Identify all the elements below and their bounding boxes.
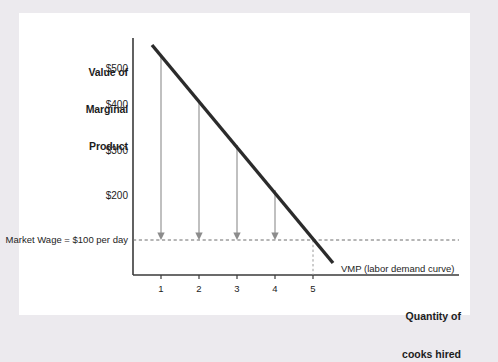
y-tick-label-400: $400: [67, 99, 128, 111]
drop-line-q2: [195, 100, 202, 240]
x-tick-label-1: 1: [149, 283, 173, 294]
vmp-curve: [152, 45, 333, 263]
x-axis-title: Quantity of cooks hired: [369, 285, 461, 362]
x-tick-label-2: 2: [187, 283, 211, 294]
vmp-curve-label: VMP (labor demand curve): [341, 263, 471, 274]
y-tick-label-500: $500: [67, 63, 128, 75]
figure-card: Value of Marginal Product $500 $400 $300…: [19, 13, 470, 315]
x-axis-title-line-1: Quantity of: [369, 310, 461, 323]
drop-line-q3: [233, 145, 240, 240]
market-wage-label: Market Wage = $100 per day: [4, 234, 128, 245]
drop-line-q1: [157, 55, 164, 240]
x-tick-label-4: 4: [263, 283, 287, 294]
y-tick-label-300: $300: [67, 145, 128, 157]
x-axis-title-line-2: cooks hired: [369, 348, 461, 361]
chart-plot-area: Value of Marginal Product $500 $400 $300…: [19, 13, 470, 315]
y-tick-label-200: $200: [67, 190, 128, 202]
x-tick-label-3: 3: [225, 283, 249, 294]
x-tick-label-5: 5: [301, 283, 325, 294]
